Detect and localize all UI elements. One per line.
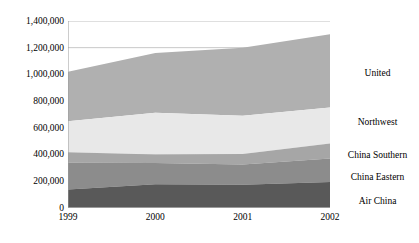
legend: United Northwest China Southern China Ea… bbox=[336, 0, 419, 243]
x-tick-label-2000: 2000 bbox=[135, 212, 175, 222]
legend-item-china-southern: China Southern bbox=[336, 150, 419, 161]
legend-item-northwest: Northwest bbox=[336, 117, 419, 128]
x-tick-label-1999: 1999 bbox=[48, 212, 88, 222]
stacked-area-chart: 1,400,000 1,200,000 1,000,000 800,000 60… bbox=[0, 0, 419, 243]
x-tick-label-2001: 2001 bbox=[223, 212, 263, 222]
legend-item-united: United bbox=[336, 68, 419, 79]
legend-item-china-eastern: China Eastern bbox=[336, 172, 419, 183]
legend-item-air-china: Air China bbox=[336, 196, 419, 207]
